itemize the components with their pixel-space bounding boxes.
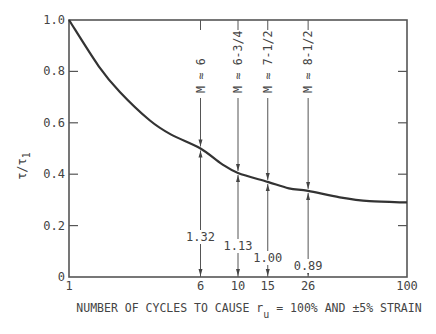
- x-tick-label: 1: [65, 279, 72, 293]
- x-tick-label: 10: [231, 279, 245, 293]
- y-tick-label: 0.6: [43, 116, 65, 130]
- x-tick-label: 6: [197, 279, 204, 293]
- x-tick-label: 26: [301, 279, 315, 293]
- ratio-label: 0.89: [294, 259, 323, 273]
- y-axis-label: τ/τ1: [15, 152, 32, 180]
- ratio-label: 1.13: [224, 239, 253, 253]
- x-axis-ticks: 16101526100: [65, 279, 417, 293]
- magnitude-label: M ≈ 6-3/4: [231, 31, 245, 93]
- magnitude-label: M ≈ 6: [194, 58, 208, 93]
- magnitude-label: M ≈ 7-1/2: [261, 31, 275, 93]
- y-tick-label: 0: [58, 270, 65, 284]
- annotation: M ≈ 7-1/21.00: [253, 20, 283, 277]
- x-tick-label: 100: [396, 279, 418, 293]
- chart: 00.20.40.60.81.0 16101526100 M ≈ 61.32M …: [0, 0, 436, 334]
- y-tick-label: 0.2: [43, 219, 65, 233]
- magnitude-annotations: M ≈ 61.32M ≈ 6-3/41.13M ≈ 7-1/21.00M ≈ 8…: [186, 20, 324, 277]
- ratio-label: 1.32: [186, 230, 215, 244]
- magnitude-label: M ≈ 8-1/2: [301, 31, 315, 93]
- y-tick-label: 0.4: [43, 167, 65, 181]
- x-axis-label: NUMBER OF CYCLES TO CAUSE ru = 100% AND …: [76, 301, 421, 320]
- x-tick-label: 15: [261, 279, 275, 293]
- ratio-label: 1.00: [253, 251, 282, 265]
- y-tick-label: 0.8: [43, 64, 65, 78]
- annotation: M ≈ 8-1/20.89: [293, 20, 323, 277]
- y-tick-label: 1.0: [43, 13, 65, 27]
- annotation: M ≈ 6-3/41.13: [223, 20, 253, 277]
